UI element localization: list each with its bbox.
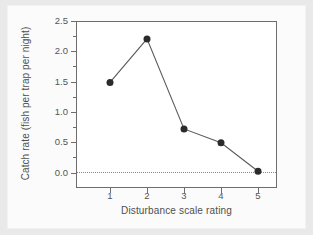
x-tick-label: 1 <box>100 191 120 201</box>
x-tick-label: 2 <box>137 191 157 201</box>
y-tick-label: 0.5 <box>38 137 68 147</box>
y-axis-title: Catch rate (fish per trap per night) <box>20 19 31 189</box>
y-tick-major <box>71 82 76 83</box>
zero-reference-line <box>77 172 276 173</box>
y-tick-label: 1.5 <box>38 77 68 87</box>
y-tick-major <box>71 112 76 113</box>
y-tick-minor <box>73 97 76 98</box>
y-tick-minor <box>73 36 76 37</box>
plot-area-frame <box>76 21 277 188</box>
x-tick-label: 4 <box>211 191 231 201</box>
x-tick-label: 5 <box>248 191 268 201</box>
x-tick-label: 3 <box>174 191 194 201</box>
y-tick-major <box>71 21 76 22</box>
figure-page: 2.5 2.0 1.5 1.0 0.5 0.0 1 2 3 4 5 Distur… <box>0 0 313 235</box>
y-tick-major <box>71 173 76 174</box>
y-tick-major <box>71 51 76 52</box>
y-tick-minor <box>73 157 76 158</box>
y-tick-label: 1.0 <box>38 107 68 117</box>
y-tick-label: 0.0 <box>38 168 68 178</box>
y-tick-minor <box>73 66 76 67</box>
y-tick-major <box>71 142 76 143</box>
y-tick-minor <box>73 127 76 128</box>
y-tick-label: 2.0 <box>38 46 68 56</box>
y-tick-label: 2.5 <box>38 16 68 26</box>
line-chart: 2.5 2.0 1.5 1.0 0.5 0.0 1 2 3 4 5 Distur… <box>0 0 313 235</box>
x-axis-title: Disturbance scale rating <box>76 205 277 216</box>
